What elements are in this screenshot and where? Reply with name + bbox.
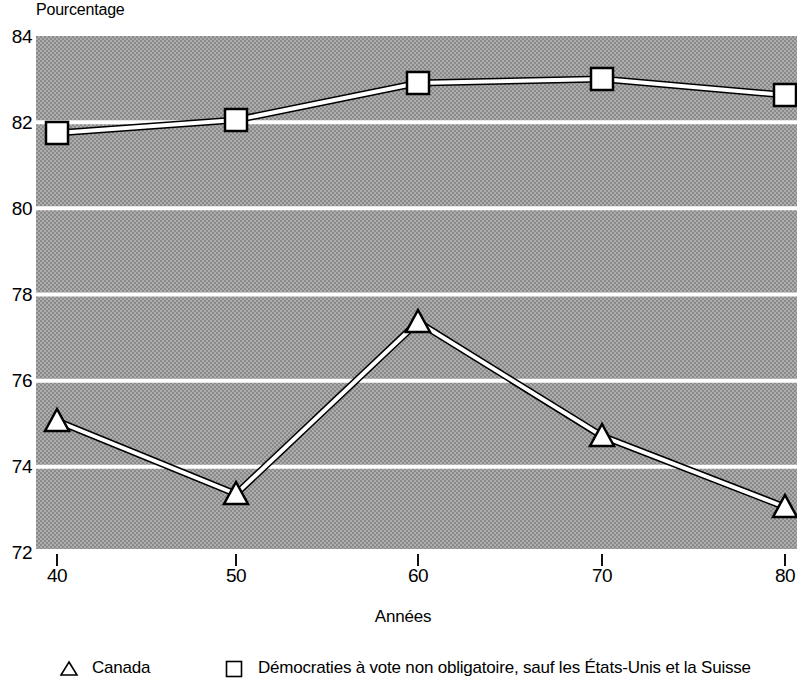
series-democracies-markers <box>46 68 796 144</box>
x-tick-label: 70 <box>572 566 632 585</box>
y-axis-tick-labels: 84 82 80 78 76 74 72 <box>0 0 32 694</box>
plot-area <box>36 36 797 553</box>
y-tick-label: 82 <box>0 113 32 132</box>
x-axis-title: Années <box>0 607 806 627</box>
y-tick-label: 78 <box>0 285 32 304</box>
x-tick-label: 40 <box>27 566 87 585</box>
gridlines <box>36 122 797 551</box>
square-marker-icon <box>224 658 244 678</box>
x-tick-label: 80 <box>755 566 806 585</box>
y-tick-label: 84 <box>0 27 32 46</box>
triangle-marker-icon <box>59 658 79 678</box>
x-tick-label: 60 <box>388 566 448 585</box>
y-tick-label: 74 <box>0 457 32 476</box>
y-tick-label: 76 <box>0 371 32 390</box>
chart-legend: Canada Démocraties à vote non obligatoir… <box>0 652 806 692</box>
series-canada-line <box>57 322 785 507</box>
y-axis-title: Pourcentage <box>36 1 125 19</box>
legend-label-canada: Canada <box>92 658 150 678</box>
y-tick-label: 72 <box>0 543 32 562</box>
x-tick-label: 50 <box>206 566 266 585</box>
plot-svg <box>36 36 797 553</box>
y-tick-label: 80 <box>0 199 32 218</box>
legend-item-canada: Canada <box>59 656 150 680</box>
line-chart: Pourcentage 84 82 80 78 76 74 72 <box>0 0 806 694</box>
legend-label-democracies: Démocraties à vote non obligatoire, sauf… <box>258 658 751 678</box>
series-canada-markers <box>45 310 797 517</box>
legend-item-democracies: Démocraties à vote non obligatoire, sauf… <box>224 656 751 680</box>
